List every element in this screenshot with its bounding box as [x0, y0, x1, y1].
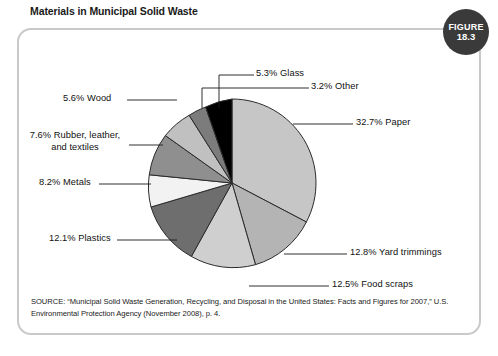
figure-container: Materials in Municipal Solid Waste FIGUR… — [0, 0, 498, 356]
label-glass: 5.3% Glass — [256, 68, 304, 78]
figure-badge: FIGURE 18.3 — [443, 9, 489, 55]
pie-chart: 5.3% Glass 3.2% Other 32.7% Paper 12.8% … — [17, 28, 481, 335]
label-rubber-line2: and textiles — [51, 142, 99, 152]
label-food-scraps: 12.5% Food scraps — [332, 279, 413, 289]
label-other: 3.2% Other — [311, 81, 359, 91]
source-line-1: SOURCE: “Municipal Solid Waste Generatio… — [31, 297, 432, 306]
label-yard-trimmings: 12.8% Yard trimmings — [350, 247, 442, 257]
label-rubber-leather-textiles: 7.6% Rubber, leather, and textiles — [23, 130, 127, 153]
label-wood: 5.6% Wood — [63, 93, 111, 103]
label-plastics: 12.1% Plastics — [49, 233, 111, 243]
figure-badge-number: 18.3 — [457, 32, 476, 42]
pie-slices — [148, 99, 316, 268]
source-note: SOURCE: “Municipal Solid Waste Generatio… — [31, 296, 456, 320]
label-paper: 32.7% Paper — [356, 117, 410, 127]
label-metals: 8.2% Metals — [39, 177, 91, 187]
page-title: Materials in Municipal Solid Waste — [30, 5, 198, 17]
label-rubber-line1: 7.6% Rubber, leather, — [30, 130, 120, 140]
